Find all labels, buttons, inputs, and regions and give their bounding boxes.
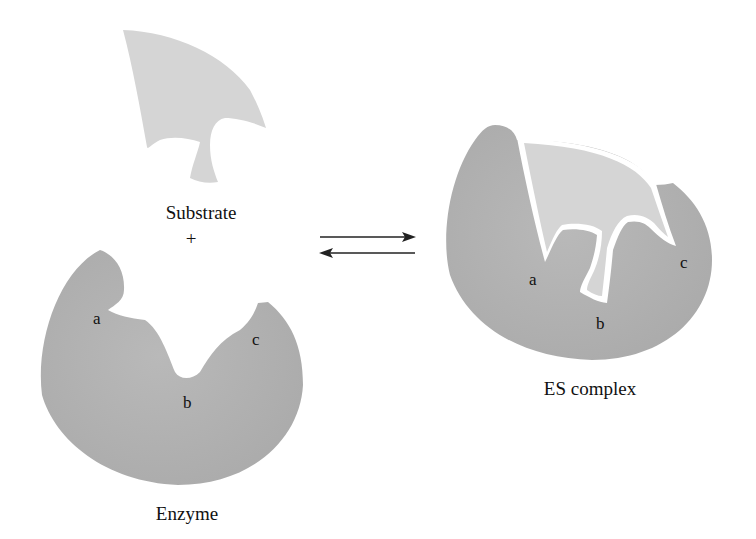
es-complex-label: ES complex — [544, 378, 637, 399]
site-label-b: b — [183, 393, 192, 412]
enzyme-substrate-diagram: Substrate + a b c Enzyme a b c ES comple… — [0, 0, 756, 539]
es-site-label-c: c — [680, 253, 688, 272]
site-label-a: a — [93, 309, 101, 328]
enzyme-shape — [41, 250, 303, 485]
enzyme-label: Enzyme — [156, 503, 218, 524]
substrate-label: Substrate — [166, 202, 237, 223]
equilibrium-arrows — [319, 232, 416, 258]
es-site-label-b: b — [596, 314, 605, 333]
site-label-c: c — [252, 330, 260, 349]
substrate-shape — [123, 30, 266, 183]
plus-sign: + — [186, 228, 197, 249]
es-site-label-a: a — [529, 270, 537, 289]
